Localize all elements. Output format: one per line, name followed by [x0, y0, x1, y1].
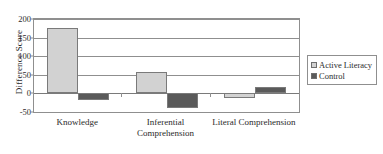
legend-swatch-icon — [311, 73, 317, 79]
x-axis-labels: KnowledgeInferential ComprehensionLitera… — [33, 117, 300, 151]
legend-label: Control — [319, 71, 345, 81]
y-tick-mark — [31, 56, 34, 57]
legend-label: Active Literacy — [319, 60, 372, 70]
bar — [78, 93, 109, 100]
y-tick-label: 200 — [18, 15, 31, 24]
gridline — [34, 19, 299, 20]
y-tick-mark — [31, 37, 34, 38]
x-axis-category-label: Knowledge — [33, 117, 121, 128]
y-tick-mark — [31, 93, 34, 94]
legend-item[interactable]: Control — [311, 70, 372, 81]
y-tick-label: -50 — [20, 108, 31, 117]
legend-swatch-icon — [311, 62, 317, 68]
y-tick-mark — [31, 112, 34, 113]
x-axis-category-label: Inferential Comprehension — [121, 117, 209, 139]
bar — [224, 93, 255, 98]
bar — [167, 93, 198, 107]
x-axis-category-label: Literal Comprehension — [210, 117, 298, 128]
bar-chart: Difference Score 200150100500-50 Knowled… — [0, 0, 383, 154]
bar — [136, 72, 167, 94]
bar — [47, 28, 78, 93]
y-tick-label: 150 — [18, 33, 31, 42]
category-tick-mark — [210, 93, 211, 97]
legend-item[interactable]: Active Literacy — [311, 59, 372, 70]
category-tick-mark — [121, 93, 122, 97]
y-tick-label: 0 — [27, 89, 31, 98]
chart-legend: Active LiteracyControl — [307, 55, 377, 85]
y-tick-label: 100 — [18, 52, 31, 61]
plot-area: 200150100500-50 — [33, 18, 300, 113]
y-tick-mark — [31, 19, 34, 20]
y-tick-mark — [31, 74, 34, 75]
gridline — [34, 112, 299, 113]
y-tick-label: 50 — [23, 71, 32, 80]
bar — [255, 87, 286, 93]
